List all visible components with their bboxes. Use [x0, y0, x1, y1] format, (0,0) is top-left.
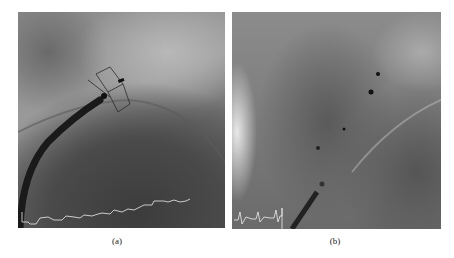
marker-icon — [320, 182, 325, 187]
ecg-trace-icon — [22, 199, 190, 224]
panel-b-overlay — [232, 12, 441, 229]
marker-icon — [316, 146, 320, 150]
catheter-icon — [20, 100, 100, 228]
panel-a-overlay — [18, 12, 225, 228]
panel-caption-b: (b) — [315, 236, 355, 246]
fluoroscopy-image-a — [18, 12, 225, 228]
ecg-trace-icon — [234, 208, 282, 229]
panel-caption-a: (a) — [97, 236, 137, 246]
marker-icon — [369, 90, 374, 95]
marker-icon — [343, 128, 346, 131]
fluoroscopy-image-b — [232, 12, 441, 229]
catheter-icon — [292, 192, 317, 229]
marker-icon — [376, 72, 380, 76]
